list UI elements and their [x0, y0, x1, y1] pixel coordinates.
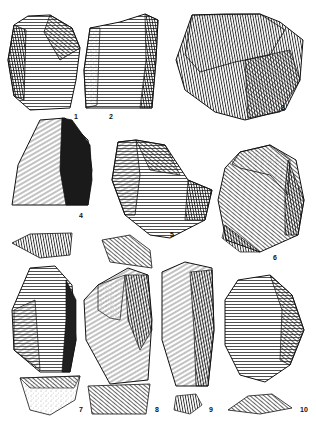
figure-label-3: 3 — [281, 104, 285, 111]
artifact-4-section — [12, 233, 72, 258]
artifact-5 — [112, 140, 212, 238]
artifact-8 — [84, 268, 152, 414]
artifact-9 — [162, 262, 214, 414]
artifact-2 — [84, 14, 158, 108]
figure-label-10: 10 — [300, 406, 308, 413]
figure-label-4: 4 — [79, 212, 83, 219]
figure-label-1: 1 — [74, 113, 78, 120]
artifact-1 — [8, 15, 80, 110]
figure-label-2: 2 — [109, 113, 113, 120]
figure-label-8: 8 — [155, 406, 159, 413]
figure-label-6: 6 — [273, 254, 277, 261]
artifact-5-section — [102, 235, 152, 268]
artifact-6 — [218, 145, 304, 252]
artifact-4 — [12, 118, 92, 205]
figure-label-7: 7 — [79, 406, 83, 413]
figure-label-9: 9 — [209, 406, 213, 413]
artifact-7 — [12, 266, 80, 415]
artifact-plate: 1 2 3 4 5 6 7 8 9 10 — [0, 0, 316, 423]
figure-label-5: 5 — [170, 231, 174, 238]
plate-drawing — [0, 0, 316, 423]
artifact-10 — [225, 275, 304, 414]
